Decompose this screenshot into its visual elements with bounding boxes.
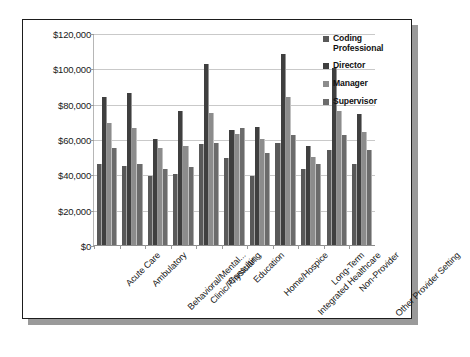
x-axis-tick-mark bbox=[145, 245, 146, 249]
bar-group bbox=[196, 34, 222, 245]
screenshot-stage: $120,000$100,000$80,000$60,000$40,000$20… bbox=[0, 0, 470, 357]
x-axis-category-label: Home/Hospice bbox=[282, 250, 330, 298]
y-axis-tick-label: $80,000 bbox=[29, 99, 91, 110]
x-axis-tick-mark bbox=[120, 245, 121, 249]
x-axis-tick-mark bbox=[324, 245, 325, 249]
y-axis-tick-label: $40,000 bbox=[29, 170, 91, 181]
x-axis-tick-mark bbox=[298, 245, 299, 249]
x-axis-tick-mark bbox=[196, 245, 197, 249]
y-axis-tick-label: $120,000 bbox=[29, 29, 91, 40]
bar bbox=[112, 148, 117, 245]
bar-group bbox=[120, 34, 146, 245]
legend-swatch-icon bbox=[323, 36, 329, 42]
bar bbox=[137, 164, 142, 245]
legend-label: Director bbox=[333, 61, 365, 71]
chart-card: $120,000$100,000$80,000$60,000$40,000$20… bbox=[22, 19, 412, 319]
legend-swatch-icon bbox=[323, 81, 329, 87]
bar bbox=[240, 128, 245, 245]
bar bbox=[265, 153, 270, 245]
bar bbox=[316, 164, 321, 245]
legend-item[interactable]: Coding Professional bbox=[323, 34, 409, 53]
y-axis-tick-label: $100,000 bbox=[29, 64, 91, 75]
x-axis-tick-mark bbox=[171, 245, 172, 249]
x-axis-tick-mark bbox=[94, 245, 95, 249]
chart-legend: Coding ProfessionalDirectorManagerSuperv… bbox=[323, 34, 409, 114]
bar-group bbox=[247, 34, 273, 245]
bar bbox=[214, 143, 219, 245]
legend-label: Manager bbox=[333, 79, 368, 89]
bar bbox=[342, 135, 347, 245]
y-axis-tick-label: $20,000 bbox=[29, 205, 91, 216]
x-axis-tick-mark bbox=[349, 245, 350, 249]
y-axis-tick-labels: $120,000$100,000$80,000$60,000$40,000$20… bbox=[25, 20, 91, 318]
legend-swatch-icon bbox=[323, 99, 329, 105]
legend-item[interactable]: Director bbox=[323, 61, 409, 71]
bar-group bbox=[171, 34, 197, 245]
y-axis-tick-label: $0 bbox=[29, 241, 91, 252]
legend-label: Supervisor bbox=[333, 97, 377, 107]
bar bbox=[367, 150, 372, 245]
legend-swatch-icon bbox=[323, 63, 329, 69]
legend-item[interactable]: Manager bbox=[323, 79, 409, 89]
bar-group bbox=[94, 34, 120, 245]
bar-group bbox=[222, 34, 248, 245]
bar bbox=[189, 167, 194, 245]
chart-plot-wrapper: $120,000$100,000$80,000$60,000$40,000$20… bbox=[23, 20, 411, 318]
x-axis-category-labels: Acute CareAmbulatoryBehavioral/Mental...… bbox=[93, 250, 375, 320]
x-axis-tick-mark bbox=[247, 245, 248, 249]
legend-item[interactable]: Supervisor bbox=[323, 97, 409, 107]
bar-group bbox=[298, 34, 324, 245]
x-axis-tick-mark bbox=[222, 245, 223, 249]
bar-group bbox=[273, 34, 299, 245]
bar bbox=[163, 169, 168, 245]
x-axis-category-label: Other Provider Setting bbox=[393, 250, 461, 318]
bar bbox=[291, 135, 296, 245]
x-axis-tick-mark bbox=[273, 245, 274, 249]
bar-group bbox=[145, 34, 171, 245]
legend-label: Coding Professional bbox=[333, 34, 409, 53]
y-axis-tick-label: $60,000 bbox=[29, 135, 91, 146]
